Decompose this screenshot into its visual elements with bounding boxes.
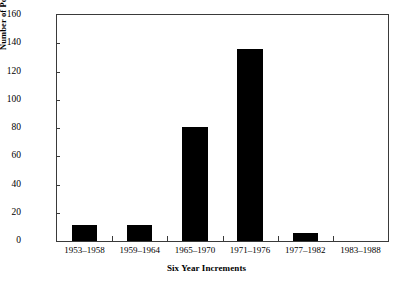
y-tick-label: 140 <box>0 39 21 49</box>
bar <box>237 49 262 241</box>
y-tick-label: 60 <box>0 152 21 162</box>
x-axis-title-label: Six Year Increments <box>167 263 246 273</box>
x-tick-label: 1977–1982 <box>285 246 326 255</box>
bar <box>127 225 152 241</box>
y-tick-label: 20 <box>0 208 21 218</box>
x-tick-label: 1965–1970 <box>175 246 216 255</box>
y-tick-label: 160 <box>0 10 21 20</box>
bar-chart-figure: Number of Power Plants Ordered 020406080… <box>0 0 413 291</box>
y-tick-label: 80 <box>0 123 21 133</box>
y-tick-label: 40 <box>0 180 21 190</box>
bars-layer <box>57 15 388 241</box>
y-tick-label: 120 <box>0 67 21 77</box>
x-tick-label: 1983–1988 <box>340 246 381 255</box>
bar <box>72 225 97 241</box>
y-tick-label: 100 <box>0 95 21 105</box>
x-tick-label: 1953–1958 <box>64 246 105 255</box>
bar <box>293 233 318 241</box>
x-axis-title: Six Year Increments <box>0 263 413 273</box>
bar <box>182 127 207 241</box>
x-tick-label: 1959–1964 <box>120 246 161 255</box>
y-tick-label: 0 <box>0 236 21 246</box>
x-tick-label: 1971–1976 <box>230 246 271 255</box>
